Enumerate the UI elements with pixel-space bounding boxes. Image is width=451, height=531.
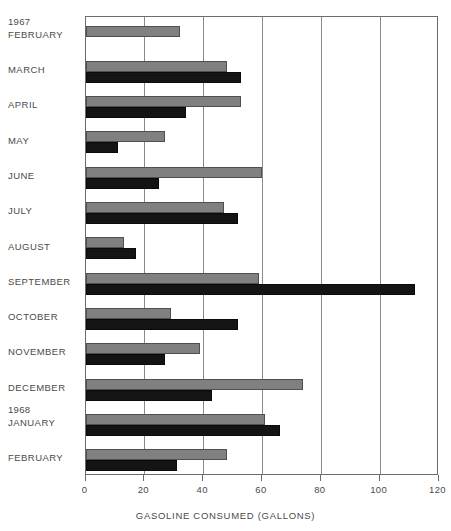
category-label-8: OCTOBER bbox=[8, 311, 58, 322]
bar-black-4 bbox=[86, 178, 160, 189]
bar-black-9 bbox=[86, 354, 165, 365]
category-label-1: MARCH bbox=[8, 64, 45, 75]
bar-gray-1 bbox=[86, 61, 227, 72]
bar-gray-4 bbox=[86, 167, 263, 178]
category-label-11: JANUARY bbox=[8, 417, 55, 428]
gridline-60 bbox=[262, 17, 263, 474]
x-axis-tick-marks bbox=[85, 475, 438, 483]
x-tick-60 bbox=[261, 475, 262, 481]
bar-black-5 bbox=[86, 213, 239, 224]
gridline-40 bbox=[203, 17, 204, 474]
category-label-10: DECEMBER bbox=[8, 382, 65, 393]
x-tick-label-40: 40 bbox=[196, 484, 207, 495]
bar-black-10 bbox=[86, 390, 212, 401]
x-tick-100 bbox=[379, 475, 380, 481]
category-label-6: AUGUST bbox=[8, 241, 50, 252]
bar-black-2 bbox=[86, 107, 186, 118]
bar-black-7 bbox=[86, 284, 415, 295]
year-label-1967: 1967 bbox=[8, 16, 30, 27]
bar-gray-0 bbox=[86, 26, 180, 37]
bar-gray-6 bbox=[86, 237, 124, 248]
x-tick-120 bbox=[438, 475, 439, 481]
bar-black-11 bbox=[86, 425, 280, 436]
category-label-4: JUNE bbox=[8, 170, 35, 181]
gridline-100 bbox=[380, 17, 381, 474]
x-tick-80 bbox=[320, 475, 321, 481]
category-label-12: FEBRUARY bbox=[8, 452, 63, 463]
x-tick-20 bbox=[143, 475, 144, 481]
x-tick-label-20: 20 bbox=[138, 484, 149, 495]
bar-black-12 bbox=[86, 460, 177, 471]
gasoline-consumption-bar-chart: 1967FEBRUARYMARCHAPRILMAYJUNEJULYAUGUSTS… bbox=[0, 0, 451, 531]
x-tick-label-0: 0 bbox=[82, 484, 88, 495]
x-tick-label-60: 60 bbox=[255, 484, 266, 495]
x-tick-label-80: 80 bbox=[314, 484, 325, 495]
category-label-9: NOVEMBER bbox=[8, 346, 66, 357]
bar-gray-7 bbox=[86, 273, 260, 284]
bar-gray-9 bbox=[86, 343, 201, 354]
x-tick-label-100: 100 bbox=[370, 484, 387, 495]
category-label-column: 1967FEBRUARYMARCHAPRILMAYJUNEJULYAUGUSTS… bbox=[0, 0, 84, 531]
category-label-0: FEBRUARY bbox=[8, 29, 63, 40]
x-axis-title: GASOLINE CONSUMED (GALLONS) bbox=[0, 510, 451, 521]
bar-gray-10 bbox=[86, 379, 304, 390]
plot-area bbox=[85, 16, 438, 475]
x-tick-label-120: 120 bbox=[429, 484, 446, 495]
bar-black-6 bbox=[86, 248, 136, 259]
bar-black-8 bbox=[86, 319, 239, 330]
bar-gray-5 bbox=[86, 202, 224, 213]
gridline-20 bbox=[144, 17, 145, 474]
category-label-7: SEPTEMBER bbox=[8, 276, 71, 287]
bar-gray-2 bbox=[86, 96, 242, 107]
gridline-80 bbox=[321, 17, 322, 474]
bar-black-3 bbox=[86, 142, 118, 153]
bar-gray-12 bbox=[86, 449, 227, 460]
year-label-1968: 1968 bbox=[8, 404, 30, 415]
x-tick-0 bbox=[85, 475, 86, 481]
bar-gray-3 bbox=[86, 131, 165, 142]
bar-gray-11 bbox=[86, 414, 265, 425]
category-label-5: JULY bbox=[8, 205, 32, 216]
bar-black-1 bbox=[86, 72, 242, 83]
category-label-2: APRIL bbox=[8, 99, 38, 110]
bar-gray-8 bbox=[86, 308, 171, 319]
x-tick-40 bbox=[202, 475, 203, 481]
category-label-3: MAY bbox=[8, 135, 29, 146]
